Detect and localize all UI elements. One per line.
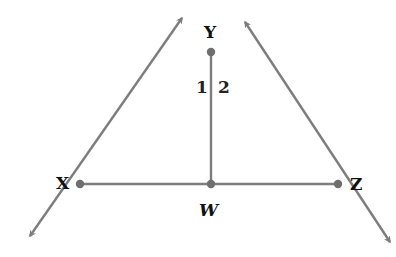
label-y: Y: [204, 24, 216, 41]
point-z: [334, 180, 342, 188]
triangle-diagram: [0, 0, 396, 257]
label-x: X: [56, 175, 69, 192]
point-x: [76, 180, 84, 188]
label-w: W: [199, 202, 218, 219]
angle-2-label: 2: [218, 79, 230, 96]
point-y: [207, 48, 215, 56]
line-yz: [245, 22, 390, 242]
line-xy: [30, 18, 182, 236]
point-w: [207, 180, 215, 188]
angle-1-label: 1: [196, 79, 208, 96]
label-z: Z: [350, 176, 362, 193]
